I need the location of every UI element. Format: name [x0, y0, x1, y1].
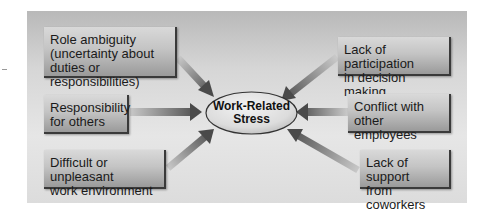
arrow-responsibility: [130, 103, 202, 121]
arrow-support: [287, 129, 358, 170]
box-conflict-with-employees: Conflict with other employees: [348, 94, 451, 133]
box-responsibility-for-others: Responsibility for others: [44, 95, 129, 134]
box-difficult-work-environment: Difficult or unpleasant work environment: [44, 150, 166, 189]
box-lack-of-support: Lack of support from coworkers: [360, 150, 451, 189]
box-role-ambiguity: Role ambiguity (uncertainty about duties…: [44, 27, 177, 78]
arrow-work-environment: [168, 129, 214, 168]
arrow-conflict: [296, 103, 348, 121]
box-lack-of-participation: Lack of participation in decision making: [338, 37, 451, 76]
center-label-work-related-stress: Work-Related Stress: [206, 92, 297, 134]
